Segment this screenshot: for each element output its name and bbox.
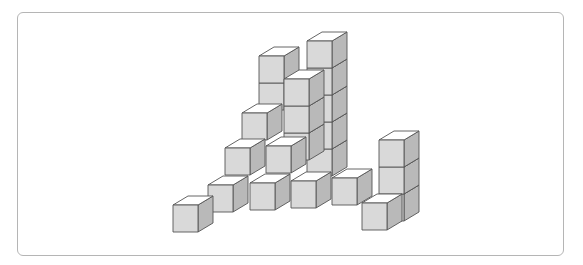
cube (208, 176, 248, 212)
cube (225, 139, 265, 175)
cube (362, 194, 402, 230)
cube (250, 174, 290, 210)
cube (379, 131, 419, 167)
cube (307, 32, 347, 68)
cube (266, 137, 306, 173)
cube (242, 104, 282, 140)
cube (284, 70, 324, 106)
cube (291, 172, 331, 208)
cube (332, 169, 372, 205)
cube-diagram (0, 0, 583, 265)
cube (173, 196, 213, 232)
